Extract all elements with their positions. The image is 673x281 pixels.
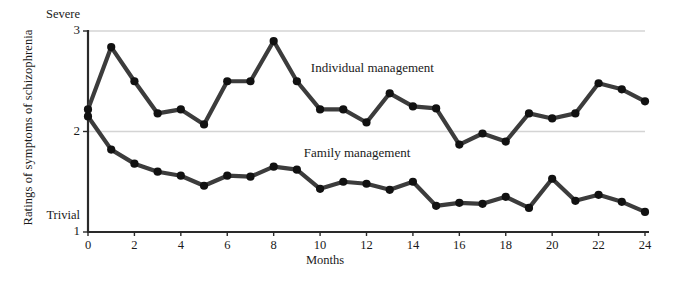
data-point [154,109,162,117]
data-point [618,198,626,206]
data-point [200,182,208,190]
x-tick-label-4: 4 [178,238,184,253]
data-point [339,105,347,113]
data-point [502,193,510,201]
data-point [316,185,324,193]
data-point [409,102,417,110]
x-axis-title: Months [306,253,344,268]
series-family-management [84,112,649,216]
data-point [270,163,278,171]
data-point [432,202,440,210]
data-point [571,197,579,205]
x-tick-label-22: 22 [592,238,605,253]
y-tick-label-1: 1 [42,223,80,239]
data-point [641,208,649,216]
data-point [200,120,208,128]
y-axis-word-severe: Severe [0,7,80,22]
data-point [362,118,370,126]
data-point [455,199,463,207]
data-point [618,85,626,93]
x-tick-label-6: 6 [224,238,230,253]
y-tick-label-3: 3 [42,22,80,38]
data-point [84,112,92,120]
data-point [548,175,556,183]
series-line [88,116,645,211]
x-tick-label-12: 12 [360,238,373,253]
y-tick-label-2: 2 [42,123,80,139]
data-point [478,129,486,137]
data-point [177,105,185,113]
x-tick-label-18: 18 [500,238,513,253]
x-tick-label-2: 2 [131,238,137,253]
data-point [386,186,394,194]
data-point [246,77,254,85]
schizophrenia-ratings-line-chart: Ratings of symptoms of schizophrenia Mon… [0,0,673,281]
data-point [594,191,602,199]
x-tick-label-0: 0 [85,238,91,253]
x-tick-label-16: 16 [453,238,466,253]
data-point [571,109,579,117]
data-point [502,137,510,145]
x-tick-label-20: 20 [546,238,559,253]
data-point [223,77,231,85]
data-point [548,114,556,122]
data-point [84,105,92,113]
x-tick-label-8: 8 [271,238,277,253]
data-point [594,79,602,87]
data-point [432,104,440,112]
data-point [293,166,301,174]
data-point [386,89,394,97]
plot-area [0,0,673,281]
data-point [107,145,115,153]
data-point [107,43,115,51]
x-tick-label-10: 10 [314,238,327,253]
data-point [130,77,138,85]
data-point [130,160,138,168]
series-annotation-family-management: Family management [304,145,411,161]
series-annotation-individual-management: Individual management [311,60,434,76]
data-point [293,77,301,85]
data-point [223,172,231,180]
data-point [362,180,370,188]
data-point [177,172,185,180]
data-point [339,178,347,186]
data-point [154,168,162,176]
data-point [455,140,463,148]
x-tick-label-14: 14 [407,238,420,253]
data-point [409,178,417,186]
y-axis-word-trivial: Trivial [0,208,80,223]
data-point [525,204,533,212]
data-point [270,37,278,45]
x-tick-label-24: 24 [639,238,652,253]
data-point [316,105,324,113]
data-point [246,173,254,181]
data-point [525,109,533,117]
data-point [641,97,649,105]
data-point [478,200,486,208]
series-line [88,41,645,145]
